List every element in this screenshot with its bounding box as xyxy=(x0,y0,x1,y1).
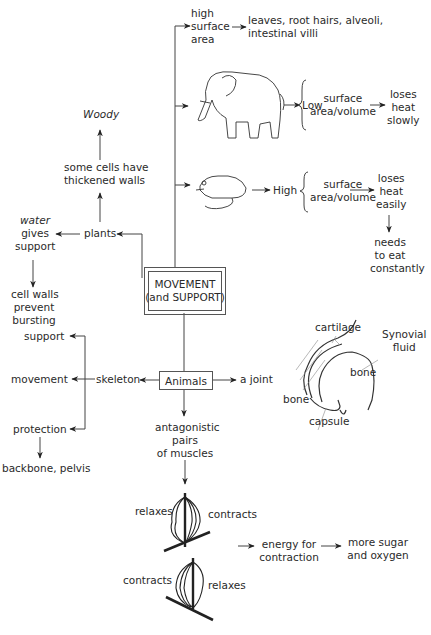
label-line: some cells have xyxy=(64,161,136,174)
bottom-relaxes-label: relaxes xyxy=(208,579,246,592)
label-line: bursting xyxy=(11,314,57,327)
central-topic-inner: MOVEMENT (and SUPPORT) xyxy=(148,271,222,311)
label-line: fluid xyxy=(382,341,426,354)
label-line: constantly xyxy=(370,262,410,275)
muscle-pair-top xyxy=(164,493,210,551)
central-topic-subtitle: (and SUPPORT) xyxy=(145,291,225,304)
high-ratio-label: surface area/volume xyxy=(310,178,376,204)
cell-walls-label: cell walls prevent bursting xyxy=(11,288,57,327)
energy-label: energy for contraction xyxy=(258,538,320,564)
label-line: to eat xyxy=(370,249,410,262)
protection-label: protection xyxy=(13,423,67,436)
label-line: loses xyxy=(376,172,406,185)
label-line: pairs xyxy=(155,434,215,447)
water-support-label: water gives support xyxy=(15,214,55,253)
label-line: surface xyxy=(310,178,376,191)
label-line: high xyxy=(191,7,230,20)
label-line: prevent xyxy=(11,301,57,314)
label-line: intestinal villi xyxy=(248,27,383,40)
bone-upper-label: bone xyxy=(350,366,376,379)
label-line: leaves, root hairs, alveoli, xyxy=(248,14,383,27)
movement-label: movement xyxy=(11,373,68,386)
label-line: surface xyxy=(310,92,376,105)
plants-label: plants xyxy=(84,227,116,240)
high-surface-area-label: high surface area xyxy=(191,7,230,46)
elephant-illustration xyxy=(198,72,284,138)
label-line: Synovial xyxy=(382,328,426,341)
label-line: contraction xyxy=(258,551,320,564)
joint-label: a joint xyxy=(240,373,273,386)
label-line: area/volume xyxy=(310,191,376,204)
label-line: area xyxy=(191,33,230,46)
label-line: and oxygen xyxy=(346,549,410,562)
low-ratio-label: surface area/volume xyxy=(310,92,376,118)
high-label: High xyxy=(273,184,297,197)
antagonistic-muscles-label: antagonistic pairs of muscles xyxy=(155,421,215,460)
label-line: heat xyxy=(387,101,420,114)
central-topic-box: MOVEMENT (and SUPPORT) xyxy=(144,267,226,315)
capsule-label: capsule xyxy=(309,415,349,428)
loses-heat-easily-label: loses heat easily xyxy=(376,172,406,211)
synovial-fluid-label: Synovial fluid xyxy=(382,328,426,354)
mouse-illustration xyxy=(196,176,246,209)
label-line: antagonistic xyxy=(155,421,215,434)
thickened-walls-label: some cells have thickened walls xyxy=(64,161,136,187)
muscle-pair-bottom xyxy=(166,558,213,620)
bone-lower-label: bone xyxy=(283,393,309,406)
label-line: heat xyxy=(376,185,406,198)
label-line: needs xyxy=(370,236,410,249)
backbone-pelvis-label: backbone, pelvis xyxy=(2,462,90,475)
top-relaxes-label: relaxes xyxy=(135,505,173,518)
label-line: water xyxy=(15,214,55,227)
support-label: support xyxy=(24,330,64,343)
woody-label: Woody xyxy=(83,108,119,121)
skeleton-label: skeleton xyxy=(96,373,140,386)
central-topic-title: MOVEMENT xyxy=(155,278,216,291)
loses-heat-slowly-label: loses heat slowly xyxy=(387,88,420,127)
label-line: easily xyxy=(376,198,406,211)
animals-box: Animals xyxy=(159,371,213,390)
label-line: loses xyxy=(387,88,420,101)
label-line: gives xyxy=(15,227,55,240)
examples-label: leaves, root hairs, alveoli, intestinal … xyxy=(248,14,383,40)
top-contracts-label: contracts xyxy=(208,508,257,521)
label-line: of muscles xyxy=(155,447,215,460)
needs-to-eat-label: needs to eat constantly xyxy=(370,236,410,275)
cartilage-label: cartilage xyxy=(315,321,361,334)
sugar-oxygen-label: more sugar and oxygen xyxy=(346,536,410,562)
label-line: slowly xyxy=(387,114,420,127)
label-line: thickened walls xyxy=(64,174,136,187)
label-line: cell walls xyxy=(11,288,57,301)
label-line: area/volume xyxy=(310,105,376,118)
label-line: support xyxy=(15,240,55,253)
label-line: surface xyxy=(191,20,230,33)
label-line: more sugar xyxy=(346,536,410,549)
bottom-contracts-label: contracts xyxy=(123,574,172,587)
label-line: energy for xyxy=(258,538,320,551)
